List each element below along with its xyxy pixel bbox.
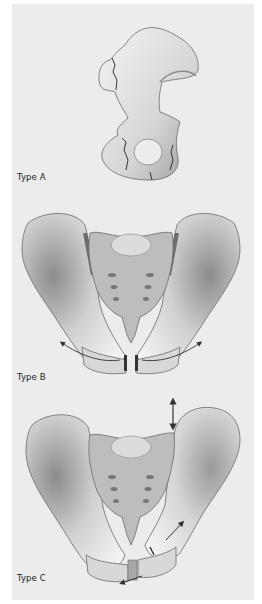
pubic-symphysis — [128, 560, 137, 580]
label-type-b: Type B — [17, 372, 46, 382]
hemipelvis-illustration — [0, 0, 262, 195]
panel-type-c: Type C — [0, 395, 262, 604]
sacral-promontory — [111, 234, 151, 256]
sacral-promontory — [111, 436, 151, 458]
label-type-a: Type A — [17, 172, 46, 182]
panel-type-b: Type B — [0, 195, 262, 395]
obturator-foramen — [134, 139, 162, 165]
label-type-c: Type C — [17, 573, 46, 583]
pelvis-illustration-open-book — [0, 195, 262, 395]
panel-type-a: Type A — [0, 0, 262, 195]
